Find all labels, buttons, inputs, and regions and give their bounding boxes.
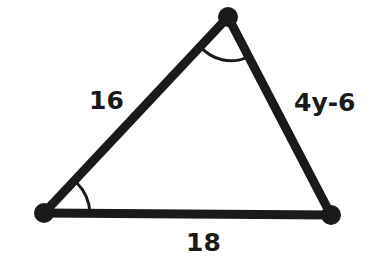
side-label-right: 4y-6 [294, 90, 355, 115]
vertex-top [218, 7, 238, 27]
side-bottom [44, 213, 331, 215]
side-label-bottom: 18 [186, 230, 221, 255]
vertex-bottom-left [34, 203, 54, 223]
vertex-bottom-right [321, 205, 341, 225]
angle-mark-bottom-left [77, 183, 90, 213]
side-label-left: 16 [89, 88, 124, 113]
